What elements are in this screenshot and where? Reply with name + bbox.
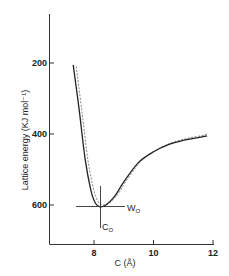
x-tick-label: 8	[91, 248, 96, 258]
lattice-energy-chart: 200400600 81012 Lattice energy (KJ mol⁻¹…	[0, 0, 229, 276]
y-ticks: 200400600	[32, 58, 54, 210]
y-tick-label: 400	[32, 129, 47, 139]
c0-label: CO	[102, 222, 114, 233]
y-tick-label: 600	[32, 200, 47, 210]
x-axis-label: C (Å)	[115, 258, 136, 268]
solid-curve	[73, 65, 207, 207]
y-axis-label: Lattice energy (KJ mol⁻¹)	[20, 90, 30, 191]
x-tick-label: 12	[208, 248, 218, 258]
w0-label: WO	[127, 203, 141, 214]
x-tick-label: 10	[148, 248, 158, 258]
dashed-curve	[76, 67, 207, 206]
y-tick-label: 200	[32, 58, 47, 68]
x-ticks: 81012	[91, 240, 218, 258]
